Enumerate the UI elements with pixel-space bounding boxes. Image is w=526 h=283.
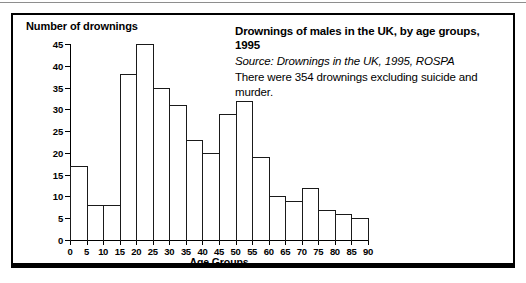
bar <box>351 218 369 241</box>
y-tick-mark <box>65 66 70 67</box>
bar <box>219 114 237 241</box>
y-tick-mark <box>65 109 70 110</box>
bar <box>236 101 254 241</box>
bar <box>269 196 287 241</box>
bar <box>285 201 303 241</box>
y-tick-mark <box>65 88 70 89</box>
bar <box>186 140 204 241</box>
y-tick-label: 30 <box>53 104 63 115</box>
bar <box>153 88 171 241</box>
y-tick-label: 40 <box>53 60 63 71</box>
y-tick-label: 5 <box>58 213 63 224</box>
y-tick-label: 15 <box>53 169 63 180</box>
y-axis-title: Number of drownings <box>26 20 138 32</box>
y-tick-label: 25 <box>53 126 63 137</box>
bar <box>70 166 88 241</box>
bar <box>120 74 138 241</box>
bar <box>87 205 105 241</box>
bar <box>202 153 220 241</box>
y-tick-label: 0 <box>58 235 63 246</box>
y-tick-mark <box>65 131 70 132</box>
y-tick-label: 20 <box>53 147 63 158</box>
bar <box>103 205 121 241</box>
y-tick-mark <box>65 44 70 45</box>
bar <box>318 210 336 241</box>
bar <box>335 214 353 241</box>
plot-area: 051015202530354045 051015202530354045505… <box>70 44 368 240</box>
bar <box>169 105 187 241</box>
y-tick-label: 35 <box>53 82 63 93</box>
figure-frame: Number of drownings Drownings of males i… <box>11 13 515 268</box>
y-tick-mark <box>65 153 70 154</box>
bar <box>252 157 270 241</box>
x-axis-title: Age Groups <box>70 256 368 268</box>
bar <box>302 188 320 241</box>
bar <box>136 44 154 241</box>
y-tick-label: 45 <box>53 39 63 50</box>
y-tick-label: 10 <box>53 191 63 202</box>
page-top-rule <box>0 2 526 3</box>
